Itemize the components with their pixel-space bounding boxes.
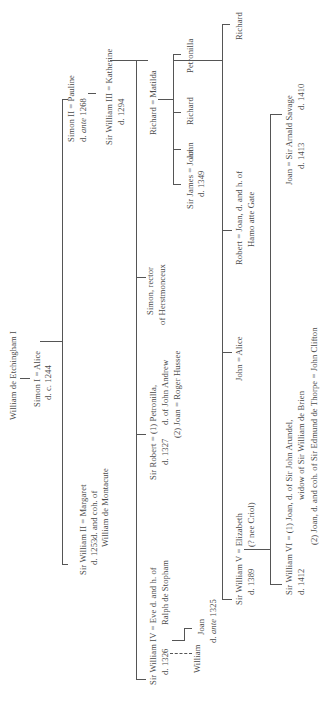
gen3-bar [136, 60, 137, 680]
margaret-note1: d. and coh. of [89, 491, 99, 539]
line-william3-down [110, 60, 136, 61]
line-root-simon1 [20, 378, 30, 379]
root-ancestor: William de Etchingham I [8, 331, 18, 420]
robert-note: Hamo atte Gate [246, 192, 256, 247]
child-richard: Richard [185, 97, 195, 125]
simon2-couple: Simon II = Pauline [66, 75, 76, 142]
eve-note: Ralph de Stopham [160, 560, 170, 625]
margaret-note2: William de Montacute [100, 468, 110, 547]
line-joan-daughter-down [184, 628, 192, 629]
richard-far: Richard [234, 12, 244, 40]
richard-matilda-couple: Richard = Matilda [148, 70, 158, 135]
line-to-richard-far [222, 24, 230, 25]
line-to-sir-robert [136, 434, 146, 435]
william3-death: d. 1294 [116, 99, 126, 125]
richard-children-bar [173, 55, 174, 185]
savage-death: d. 1410 [296, 84, 306, 110]
joan-savage-couple: Joan = Sir Arnald Savage [284, 95, 294, 185]
line-simon1-down [40, 341, 62, 342]
family-tree-diagram: William de Etchingham I Simon I = Alice … [0, 0, 334, 725]
sir-robert-couple: Sir Robert = (1) Petronilla, [148, 385, 158, 480]
line-to-robert [222, 230, 232, 231]
william6-second: (2) Joan, d. and coh. of Sir Edmund de T… [309, 327, 319, 545]
petronilla-note: d. of John Andrew [160, 360, 170, 425]
line-to-joan-savage [270, 114, 282, 115]
line-to-richard-child [173, 112, 181, 113]
simon1-death: d. c. 1244 [43, 365, 53, 400]
sir-robert-death: d. 1327 [160, 439, 170, 465]
child-petronilla: Petronilla [185, 39, 195, 73]
william6-couple: Sir William VI = (1) Joan, d. of Sir Joh… [284, 419, 294, 595]
simon-rector-1: Simon, rector [145, 267, 155, 315]
william6-death: d. 1412 [296, 569, 306, 595]
line-to-john-child [173, 149, 181, 150]
daughter-joan: Joan [196, 619, 206, 635]
gen5-bar [270, 115, 271, 585]
line-simon2-william3 [88, 93, 96, 94]
james-death: d. 1349 [196, 171, 206, 197]
line-to-petronilla [173, 54, 181, 55]
line-to-william2 [62, 564, 68, 565]
simon-rector-2: of Herstmonceux [157, 264, 167, 325]
line-to-james [173, 184, 181, 185]
line-to-william6 [270, 584, 282, 585]
william2-death: d. 1253 [89, 539, 99, 565]
joan-death: d. 1413 [296, 143, 306, 169]
line-to-joan-daughter [172, 640, 184, 641]
william4-couple: Sir William IV = Eve d. and h. of [148, 567, 158, 685]
line-richard-matilda-down [158, 99, 174, 100]
line-james-down [173, 60, 222, 61]
daughter-joan-death: d. ante 1325 [208, 599, 218, 643]
son-william: William [192, 644, 202, 673]
joan-daughter-bar [184, 629, 185, 641]
line-to-william4 [136, 679, 146, 680]
line-william5-down [244, 549, 270, 550]
line-william4-to-william [170, 652, 192, 654]
line-to-william5 [222, 599, 232, 600]
robert-couple: Robert = Joan, d. and h. of [234, 171, 244, 265]
simon2-death: d. ante 1268 [78, 98, 88, 142]
john-alice-couple: John = Alice [234, 336, 244, 381]
gen2-bar [62, 100, 63, 565]
william3-couple: Sir William III = Katherine [104, 49, 114, 145]
line-to-john-alice [222, 352, 232, 353]
sir-robert-second: (2) Joan = Roger Hussee [172, 351, 182, 438]
elizabeth-note: (? nee Criol) [246, 502, 256, 547]
william5-death: d. 1389 [246, 569, 256, 595]
william4-death: d. 1326 [160, 649, 170, 675]
william6-note: widow of Sir William de Brien [296, 391, 306, 500]
william2-couple: Sir William II = Margaret [78, 484, 88, 575]
william5-couple: Sir William V = Elizabeth [234, 513, 244, 605]
james-couple: Sir James = Joan [185, 149, 195, 209]
gen4-bar [222, 25, 223, 600]
line-to-richard-matilda [136, 60, 148, 61]
simon1-couple: Simon I = Alice [32, 351, 42, 407]
